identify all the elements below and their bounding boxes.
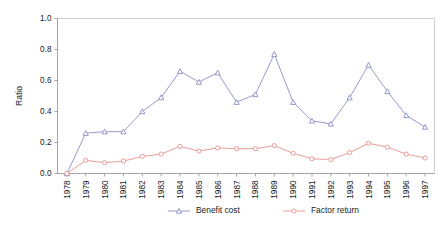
x-tick-label: 1985 <box>195 180 204 199</box>
y-tick-label: 0.4 <box>40 107 52 116</box>
data-point-marker <box>65 171 69 175</box>
data-point-marker <box>348 150 352 154</box>
data-point-marker <box>253 147 257 151</box>
x-tick-label: 1979 <box>82 180 91 199</box>
data-point-marker <box>177 69 182 74</box>
data-point-marker <box>310 157 314 161</box>
y-tick-label: 1.0 <box>40 14 52 23</box>
x-tick-label: 1986 <box>214 180 223 199</box>
data-point-marker <box>197 149 201 153</box>
data-point-marker <box>215 70 220 75</box>
x-tick-label: 1983 <box>157 180 166 199</box>
plot-frame <box>58 19 435 174</box>
data-point-marker <box>140 154 144 158</box>
series-line <box>67 54 425 173</box>
data-point-marker <box>159 152 163 156</box>
data-point-marker <box>366 141 370 145</box>
y-tick-label: 0.8 <box>40 45 52 54</box>
y-tick-label: 0.0 <box>40 169 52 178</box>
x-tick-label: 1997 <box>421 180 430 199</box>
legend-label: Benefit cost <box>196 205 240 215</box>
y-tick-label: 0.6 <box>40 76 52 85</box>
x-tick-label: 1980 <box>101 180 110 199</box>
data-point-marker <box>385 145 389 149</box>
x-tick-label: 1989 <box>270 180 279 199</box>
chart-legend: Benefit costFactor return <box>168 205 359 215</box>
data-point-marker <box>196 79 201 84</box>
y-tick-label: 0.2 <box>40 138 52 147</box>
data-point-marker <box>423 156 427 160</box>
x-tick-label: 1981 <box>119 180 128 199</box>
legend-item-factor-return: Factor return <box>283 205 359 215</box>
data-point-marker <box>404 152 408 156</box>
x-axis-ticks: 1978197919801981198219831984198519861987… <box>63 174 430 199</box>
line-chart: 0.00.20.40.60.81.0 197819791980198119821… <box>0 0 446 226</box>
data-point-marker <box>216 146 220 150</box>
data-point-marker <box>84 158 88 162</box>
legend-label: Factor return <box>311 205 359 215</box>
legend-item-benefit-cost: Benefit cost <box>168 205 240 215</box>
y-axis-ticks: 0.00.20.40.60.81.0 <box>40 14 57 178</box>
x-tick-label: 1984 <box>176 180 185 199</box>
data-point-marker <box>121 159 125 163</box>
x-tick-label: 1988 <box>251 180 260 199</box>
data-point-marker <box>253 92 258 97</box>
data-point-marker <box>291 151 295 155</box>
data-series <box>64 52 427 176</box>
data-point-marker <box>347 95 352 100</box>
x-tick-label: 1982 <box>138 180 147 199</box>
data-point-marker <box>272 144 276 148</box>
x-tick-label: 1994 <box>365 180 374 199</box>
plot-axes <box>58 19 435 174</box>
data-point-marker <box>291 100 296 105</box>
data-point-marker <box>234 100 239 105</box>
plot-frame-top-right <box>58 19 435 174</box>
x-tick-label: 1995 <box>383 180 392 199</box>
x-tick-label: 1996 <box>402 180 411 199</box>
data-point-marker <box>234 147 238 151</box>
x-tick-label: 1992 <box>327 180 336 199</box>
data-point-marker <box>103 161 107 165</box>
x-tick-label: 1987 <box>233 180 242 199</box>
series-benefit-cost <box>64 52 427 176</box>
x-tick-label: 1990 <box>289 180 298 199</box>
data-point-marker <box>422 124 427 129</box>
x-tick-label: 1978 <box>63 180 72 199</box>
x-tick-label: 1991 <box>308 180 317 199</box>
y-axis-label: Ratio <box>14 86 24 106</box>
series-factor-return <box>65 141 427 175</box>
data-point-marker <box>366 62 371 67</box>
data-point-marker <box>292 209 296 213</box>
data-point-marker <box>329 157 333 161</box>
data-point-marker <box>272 52 277 57</box>
chart-figure: 0.00.20.40.60.81.0 197819791980198119821… <box>0 0 446 226</box>
series-line <box>67 143 425 173</box>
data-point-marker <box>178 144 182 148</box>
x-tick-label: 1993 <box>346 180 355 199</box>
